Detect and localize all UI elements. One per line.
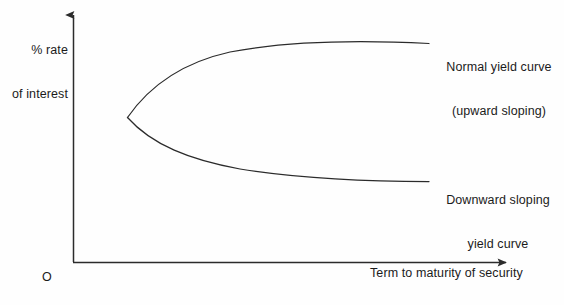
downward-yield-curve-label-line2: yield curve: [437, 237, 559, 252]
y-axis-label-line1: % rate: [0, 43, 68, 58]
normal-yield-curve-label-line1: Normal yield curve: [438, 60, 560, 75]
origin-label: O: [42, 270, 52, 285]
normal-yield-curve-label-line2: (upward sloping): [438, 104, 560, 119]
normal-yield-curve: [128, 42, 430, 118]
downward-yield-curve: [128, 118, 430, 182]
y-axis-label: % rate of interest: [0, 14, 68, 130]
downward-yield-curve-label: Downward sloping yield curve: [437, 164, 559, 280]
downward-yield-curve-label-line1: Downward sloping: [437, 193, 559, 208]
normal-yield-curve-label: Normal yield curve (upward sloping): [438, 31, 560, 147]
yield-curve-figure: % rate of interest Term to maturity of s…: [0, 0, 564, 305]
y-axis-label-line2: of interest: [0, 87, 68, 102]
